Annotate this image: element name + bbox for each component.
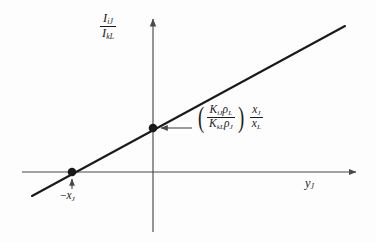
y-num-subscript: iJ bbox=[107, 17, 113, 26]
mole-fraction-denominator: xL bbox=[250, 117, 263, 131]
data-line bbox=[32, 26, 345, 196]
x-axis-label: yJ bbox=[305, 177, 314, 191]
x-intercept-marker bbox=[68, 168, 77, 177]
figure-canvas: IiJ IkL yJ −xJ ( KiJρL KkLρJ ) xJ xL bbox=[0, 0, 376, 242]
x-intercept-label: −xJ bbox=[60, 190, 75, 203]
k-kl-symbol: K bbox=[209, 117, 217, 129]
y-intercept-marker bbox=[149, 124, 158, 133]
x-l-subscript: L bbox=[257, 123, 261, 131]
mole-fraction-ratio: xJ xL bbox=[250, 104, 263, 131]
open-paren-glyph: ( bbox=[198, 108, 204, 127]
plot-svg bbox=[0, 0, 376, 242]
x-j-subscript: J bbox=[257, 109, 260, 117]
y-den-subscript: kL bbox=[106, 32, 114, 41]
coefficient-denominator: KkLρJ bbox=[207, 117, 235, 131]
y-axis-label-numerator: IiJ bbox=[100, 12, 116, 26]
x-axis-label-subscript: J bbox=[311, 182, 315, 191]
y-axis-label-denominator: IkL bbox=[100, 26, 116, 41]
k-kl-subscript: kL bbox=[217, 123, 224, 131]
rho-l-subscript: L bbox=[228, 109, 232, 117]
x-intercept-subscript: J bbox=[72, 195, 75, 203]
rho-j-subscript: J bbox=[230, 123, 233, 131]
y-intercept-annotation: ( KiJρL KkLρJ ) xJ xL bbox=[196, 104, 263, 131]
mole-fraction-numerator: xJ bbox=[250, 104, 263, 117]
y-axis-label: IiJ IkL bbox=[100, 12, 116, 41]
close-paren-glyph: ) bbox=[238, 108, 244, 127]
y-axis-label-fraction: IiJ IkL bbox=[100, 12, 116, 41]
coefficient-numerator: KiJρL bbox=[207, 104, 235, 117]
coefficient-fraction: KiJρL KkLρJ bbox=[207, 104, 235, 131]
